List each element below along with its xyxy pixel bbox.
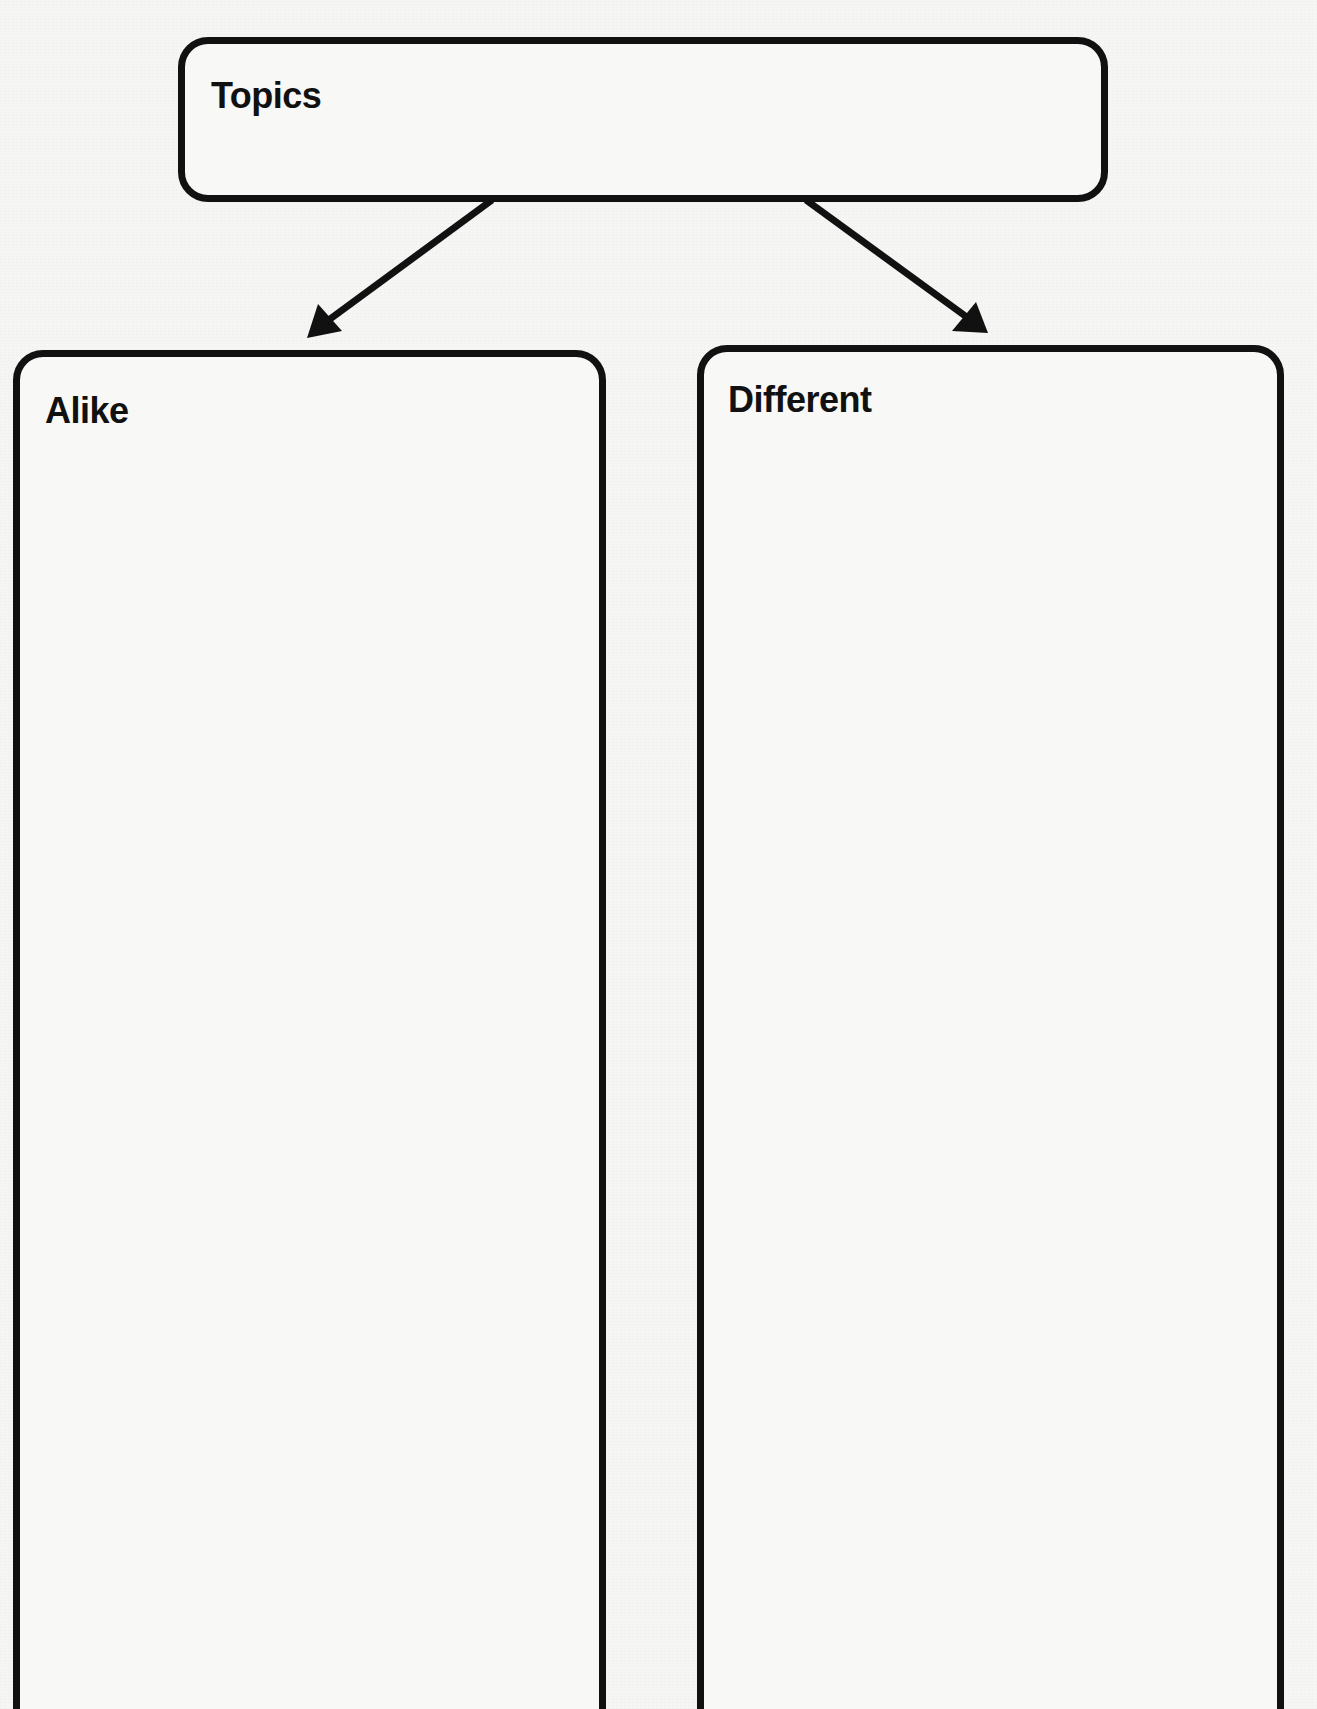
arrow-down-right-icon [806,200,988,333]
different-input[interactable] [724,432,1257,1709]
alike-input[interactable] [40,437,579,1709]
topics-input[interactable] [205,124,1081,185]
topics-box: Topics [178,37,1108,202]
alike-box: Alike [13,350,606,1709]
arrow-down-left-icon [307,200,492,338]
different-label: Different [728,382,872,418]
different-box: Different [697,345,1284,1709]
topics-label: Topics [211,78,321,114]
alike-label: Alike [45,393,129,429]
